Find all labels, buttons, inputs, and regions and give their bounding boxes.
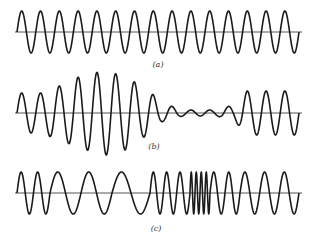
modulation-figure: [0, 0, 317, 241]
panel-c-label: (c): [151, 224, 162, 233]
panel-c: [15, 172, 302, 214]
panel-a: [15, 11, 302, 53]
panel-b-label: (b): [148, 142, 159, 151]
panel-a-label: (a): [152, 60, 163, 69]
